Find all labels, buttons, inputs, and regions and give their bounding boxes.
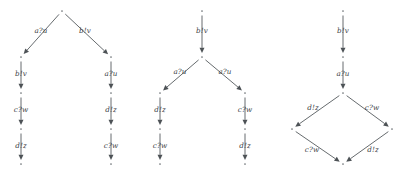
graph-node: [61, 10, 63, 12]
edge-label: d!z: [154, 106, 166, 113]
arrow-head: [334, 157, 340, 162]
graph-node: [244, 128, 246, 130]
arrow-head: [109, 120, 114, 125]
arrow-head: [158, 120, 163, 125]
edge-line: [300, 96, 340, 124]
graph-node: [20, 163, 22, 165]
edge-label: c?w: [104, 142, 118, 149]
edge-label: c?w: [153, 142, 167, 149]
diagram-canvas: a?ub!vb!va?uc?wd!zd!zc?wb!va?ua?ud!zc?wc…: [0, 0, 402, 172]
graph-node: [20, 92, 22, 94]
graph-node: [244, 92, 246, 94]
edge-label: b!v: [196, 27, 208, 34]
graph-node: [244, 163, 246, 165]
graph-node: [110, 163, 112, 165]
edge-label: d!z: [15, 142, 27, 149]
arrow-head: [19, 155, 24, 160]
edge-label: c?w: [305, 146, 319, 153]
edge-label: c?w: [365, 104, 379, 111]
edge-label: a?u: [34, 27, 47, 34]
arrow-head: [295, 122, 301, 127]
graph-node: [159, 163, 161, 165]
edge-label: b!v: [15, 70, 27, 77]
arrow-head: [346, 157, 352, 162]
edge-label: b!v: [337, 27, 349, 34]
arrow-head: [341, 84, 346, 89]
arrow-head: [19, 120, 24, 125]
graph-node: [342, 92, 344, 94]
edge-label: d!z: [307, 104, 319, 111]
arrow-head: [383, 122, 389, 127]
graph-node: [342, 10, 344, 12]
edge-label: a?u: [218, 68, 231, 75]
graph-node: [20, 56, 22, 58]
edge-label: a?u: [104, 70, 117, 77]
arrow-head: [341, 48, 346, 53]
graph-node: [342, 163, 344, 165]
edge-label: c?w: [14, 106, 28, 113]
graph-node: [291, 128, 293, 130]
graph-node: [342, 56, 344, 58]
arrow-head: [19, 84, 24, 89]
graph-node: [159, 92, 161, 94]
arrow-head: [243, 155, 248, 160]
edge-label: c?w: [238, 106, 252, 113]
edge-label: a?u: [173, 68, 186, 75]
arrow-head: [200, 48, 205, 53]
graph-node: [110, 128, 112, 130]
branching-tree-left: [19, 10, 114, 165]
arrow-head: [109, 155, 114, 160]
edge-label: d!z: [105, 106, 117, 113]
edge-label: d!z: [239, 142, 251, 149]
edge-label: a?u: [336, 70, 349, 77]
graph-node: [110, 56, 112, 58]
graph-node: [391, 128, 393, 130]
graph-node: [159, 128, 161, 130]
graph-node: [201, 10, 203, 12]
arrow-head: [109, 84, 114, 89]
arrow-head: [158, 155, 163, 160]
edge-label: b!v: [79, 27, 91, 34]
graph-node: [20, 128, 22, 130]
edge-label: d!z: [367, 146, 379, 153]
arrow-head: [243, 120, 248, 125]
graph-node: [201, 56, 203, 58]
graph-node: [110, 92, 112, 94]
